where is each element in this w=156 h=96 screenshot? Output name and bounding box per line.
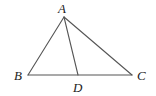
- vertex-label-c: C: [137, 68, 146, 83]
- segment-ad: [64, 17, 78, 75]
- vertex-label-a: A: [57, 1, 66, 16]
- vertex-label-b: B: [14, 68, 22, 83]
- segment-ab: [28, 17, 64, 75]
- triangle-diagram: A B C D: [0, 0, 156, 96]
- segment-ac: [64, 17, 132, 75]
- point-label-d: D: [72, 80, 83, 95]
